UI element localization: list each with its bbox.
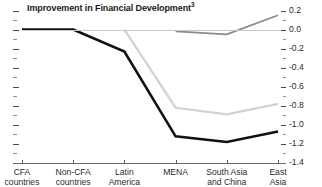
- y-axis-tick-label: 0.0: [289, 24, 301, 34]
- series-layer: [22, 15, 278, 142]
- y-axis-tick-left-major: [13, 30, 19, 31]
- y-axis-tick-left-minor: [13, 39, 17, 40]
- y-axis-tick-label: -0.8: [289, 100, 304, 110]
- y-axis-tick-label: -1.0: [289, 119, 304, 129]
- y-axis-tick-label: -0.6: [289, 81, 304, 91]
- y-axis-tick-label: 0.2: [289, 5, 301, 15]
- y-axis-tick-left-major: [13, 106, 19, 107]
- y-axis-tick-left-minor: [13, 115, 17, 116]
- y-axis-tick-left-minor: [13, 96, 17, 97]
- x-axis-category-label: EastAsia: [236, 167, 320, 187]
- category-label-line-1: East: [236, 167, 320, 178]
- y-axis-tick-label: -1.2: [289, 138, 304, 148]
- x-axis-tick: [227, 160, 228, 164]
- series-line-light-gray: [124, 30, 278, 115]
- y-axis-tick-left-major: [13, 87, 19, 88]
- plot-area: [0, 0, 322, 186]
- category-label-line-2: America: [82, 177, 166, 186]
- y-axis-tick-left-major: [13, 11, 19, 12]
- x-axis-line: [14, 163, 286, 164]
- y-axis-tick-right-minor: [283, 77, 286, 78]
- y-axis-tick-major: [281, 11, 286, 12]
- zero-reference-line: [22, 30, 284, 31]
- x-axis-tick: [278, 160, 279, 164]
- x-axis-tick: [73, 160, 74, 164]
- y-axis-tick-major: [281, 87, 286, 88]
- financial-development-chart: Improvement in Financial Development3 0.…: [0, 0, 322, 186]
- y-axis-tick-left-major: [13, 49, 19, 50]
- y-axis-tick-right-minor: [283, 20, 286, 21]
- y-axis-tick-left-minor: [13, 58, 17, 59]
- y-axis-tick-left-minor: [13, 77, 17, 78]
- y-axis-tick-right-minor: [283, 134, 286, 135]
- y-axis-tick-right-minor: [283, 58, 286, 59]
- y-axis-tick-right-minor: [283, 39, 286, 40]
- y-axis-tick-left-minor: [13, 20, 17, 21]
- y-axis-tick-major: [281, 144, 286, 145]
- y-axis-tick-major: [281, 30, 286, 31]
- y-axis-tick-major: [281, 49, 286, 50]
- x-axis-tick: [176, 160, 177, 164]
- x-axis-tick: [22, 160, 23, 164]
- y-axis-tick-left-minor: [13, 153, 17, 154]
- y-axis-tick-major: [281, 125, 286, 126]
- y-axis-tick-left-major: [13, 68, 19, 69]
- y-axis-tick-right-minor: [283, 96, 286, 97]
- y-axis-tick-label: -0.2: [289, 43, 304, 53]
- series-line-mid-gray: [176, 15, 278, 34]
- series-line-dark: [22, 30, 278, 142]
- y-axis-tick-left-minor: [13, 134, 17, 135]
- y-axis-tick-major: [281, 106, 286, 107]
- y-axis-tick-left-major: [13, 144, 19, 145]
- y-axis-tick-label: -0.4: [289, 62, 304, 72]
- y-axis-tick-major: [281, 68, 286, 69]
- x-axis-tick: [124, 160, 125, 164]
- category-label-line-2: Asia: [236, 177, 320, 186]
- y-axis-tick-right-minor: [283, 153, 286, 154]
- y-axis-tick-right-minor: [283, 115, 286, 116]
- y-axis-tick-left-major: [13, 125, 19, 126]
